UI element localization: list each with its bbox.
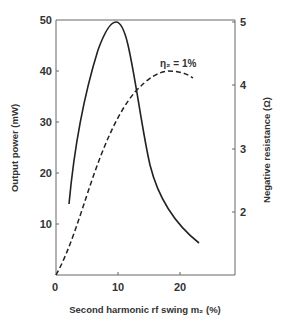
bottom-tick-labels: 0 10 20 — [52, 281, 186, 293]
right-tick-labels: 5 4 3 2 — [240, 16, 247, 218]
bottom-tick-label: 0 — [52, 281, 58, 293]
left-axis-title: Output power (mW) — [9, 104, 20, 192]
left-tick-label: 10 — [40, 218, 52, 230]
bottom-tick-label: 20 — [174, 281, 186, 293]
chart: 50 40 30 20 10 5 4 3 2 0 10 20 Output po… — [0, 0, 286, 321]
output-power-curve — [69, 22, 199, 243]
right-tick-label: 2 — [240, 206, 246, 218]
right-tick-label: 4 — [240, 79, 247, 91]
right-axis-title: Negative resistance (Ω) — [261, 97, 272, 203]
left-tick-labels: 50 40 30 20 10 — [40, 14, 52, 230]
bottom-axis-title: Second harmonic rf swing m₂ (%) — [69, 304, 221, 315]
right-tick-label: 3 — [240, 143, 246, 155]
negative-resistance-curve — [56, 71, 193, 275]
left-tick-label: 40 — [40, 65, 52, 77]
right-tick-label: 5 — [240, 16, 246, 28]
left-tick-label: 20 — [40, 167, 52, 179]
efficiency-annotation: η₂ = 1% — [160, 58, 197, 69]
left-tick-label: 50 — [40, 14, 52, 26]
plot-frame — [56, 20, 235, 275]
left-tick-label: 30 — [40, 116, 52, 128]
bottom-tick-label: 10 — [112, 281, 124, 293]
